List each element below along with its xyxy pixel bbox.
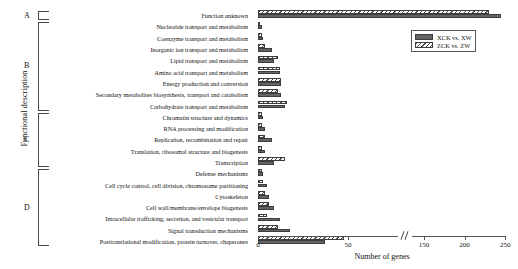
category-label: Posttranslational modification, protein … (46, 236, 251, 247)
bar-zck-zw (258, 225, 278, 229)
figure-canvas: Functional description ABCD Function unk… (0, 0, 518, 269)
category-label: Coenzyme transport and metabolism (46, 33, 251, 44)
bar-zck-zw (258, 169, 262, 173)
bar-row (258, 55, 506, 66)
x-tick (258, 236, 259, 240)
bar-zck-zw (258, 135, 265, 139)
bar-xck-xw (258, 37, 263, 41)
bar-xck-xw (258, 82, 281, 86)
bar-zck-zw (258, 191, 265, 195)
category-label: Signal transduction mechanisms (46, 225, 251, 236)
bar-row (258, 213, 506, 224)
x-tick-label: 200 (459, 241, 470, 249)
category-label: Translation, ribosomal structure and bio… (46, 146, 251, 157)
bar-zck-zw (258, 180, 263, 184)
bar-row (258, 168, 506, 179)
legend-label-xck-xw: XCK vs. XW (437, 34, 472, 41)
bar-xck-xw (258, 184, 267, 188)
x-tick (424, 236, 425, 240)
bar-zck-zw (258, 10, 489, 14)
bar-row (258, 66, 506, 77)
bar-xck-xw (258, 172, 263, 176)
group-letter: D (24, 204, 30, 212)
bar-xck-xw (258, 105, 285, 109)
legend: XCK vs. XW ZCK vs. ZW (411, 30, 476, 52)
bar-row (258, 100, 506, 111)
bar-row (258, 112, 506, 123)
category-label: Cell wall/membrane/envelope biogenesis (46, 202, 251, 213)
bar-xck-xw (258, 138, 272, 142)
bar-row (258, 191, 506, 202)
bar-row (258, 146, 506, 157)
legend-swatch-xck-xw (415, 34, 433, 40)
bar-row (258, 134, 506, 145)
bar-xck-xw (258, 150, 265, 154)
bar-row (258, 123, 506, 134)
group-letter: B (24, 62, 29, 70)
category-label: Energy production and conversion (46, 78, 251, 89)
bar-xck-xw (258, 195, 269, 199)
x-tick (465, 236, 466, 240)
legend-item: ZCK vs. ZW (415, 41, 472, 49)
bar-row (258, 179, 506, 190)
bar-xck-xw (258, 48, 272, 52)
bar-row (258, 10, 506, 21)
bar-zck-zw (258, 56, 278, 60)
category-label: Cell cycle control, cell division, chrom… (46, 179, 251, 190)
category-label: Carbohydrate transport and metabolism (46, 100, 251, 111)
category-label: Chromatin structure and dynamics (46, 112, 251, 123)
bar-xck-xw (258, 116, 263, 120)
x-tick (505, 236, 506, 240)
bar-xck-xw (258, 218, 280, 222)
x-tick-label: 0 (256, 241, 260, 249)
bar-xck-xw (258, 206, 274, 210)
category-label: Cytoskeleton (46, 191, 251, 202)
bar-zck-zw (258, 146, 262, 150)
bar-xck-xw (258, 127, 265, 131)
bar-zck-zw (258, 112, 262, 116)
x-tick-label: 250 (500, 241, 511, 249)
x-tick (348, 236, 349, 240)
bar-zck-zw (258, 67, 280, 71)
legend-swatch-zck-zw (415, 42, 433, 48)
category-label: Intracellular trafficking, secretion, an… (46, 213, 251, 224)
bar-zck-zw (258, 33, 262, 37)
category-label: Amino acid transport and metabolism (46, 66, 251, 77)
bar-xck-xw (258, 71, 280, 75)
category-label: RNA processing and modification (46, 123, 251, 134)
x-axis-title: Number of genes (258, 252, 506, 261)
bar-xck-xw (258, 93, 281, 97)
bar-zck-zw (258, 101, 287, 105)
category-label: Defense mechanisms (46, 168, 251, 179)
bar-row (258, 157, 506, 168)
bar-zck-zw (258, 78, 281, 82)
bar-zck-zw (258, 22, 260, 26)
bar-xck-xw (258, 240, 325, 244)
bar-xck-xw (258, 229, 290, 233)
bar-xck-xw (258, 161, 274, 165)
bar-xck-xw (258, 59, 274, 63)
category-label: Inorganic ion transport and metabolism (46, 44, 251, 55)
group-letter: A (24, 12, 30, 20)
x-tick-label: 50 (345, 241, 352, 249)
bar-xck-xw (258, 25, 262, 29)
bar-row (258, 78, 506, 89)
group-letter: C (24, 136, 29, 144)
category-label: Nucleotide transport and metabolism (46, 21, 251, 32)
bar-xck-xw (258, 14, 501, 18)
bar-zck-zw (258, 202, 269, 206)
category-label: Replication, recombination and repair (46, 134, 251, 145)
bar-row (258, 89, 506, 100)
bar-row (258, 202, 506, 213)
legend-item: XCK vs. XW (415, 33, 472, 41)
legend-label-zck-zw: ZCK vs. ZW (437, 42, 470, 49)
x-axis-line (258, 236, 506, 237)
bar-row (258, 225, 506, 236)
category-label: Function unknown (46, 10, 251, 21)
bar-zck-zw (258, 89, 278, 93)
bar-zck-zw (258, 157, 285, 161)
bar-zck-zw (258, 123, 262, 127)
x-tick-label: 150 (419, 241, 430, 249)
category-label-column: Function unknownNucleotide transport and… (46, 10, 251, 247)
category-label: Secondary metabolites biosynthesis, tran… (46, 89, 251, 100)
